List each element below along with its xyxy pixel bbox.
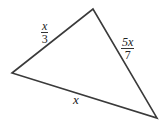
triangle <box>12 9 157 118</box>
triangle-figure <box>0 0 164 125</box>
denominator: 7 <box>125 49 131 61</box>
side-label-5x-over-7: 5x 7 <box>121 36 134 61</box>
side-label-x: x <box>73 93 79 106</box>
denominator: 3 <box>42 33 48 45</box>
side-label-x-over-3: x 3 <box>41 20 48 45</box>
